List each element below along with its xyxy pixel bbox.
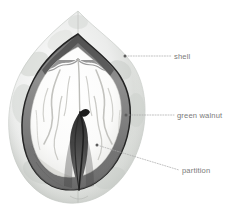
walnut-diagram-svg: shell green walnut partition (0, 0, 238, 219)
walnut-diagram-figure: shell green walnut partition (0, 0, 238, 219)
green-walnut-label: green walnut (177, 111, 223, 120)
green-walnut-anchor-dot (125, 114, 128, 117)
shell-anchor-dot (124, 55, 127, 58)
callout-shell: shell (124, 52, 191, 61)
partition-anchor-dot (96, 144, 99, 147)
shell-label: shell (174, 52, 191, 61)
partition-label: partition (182, 166, 210, 175)
